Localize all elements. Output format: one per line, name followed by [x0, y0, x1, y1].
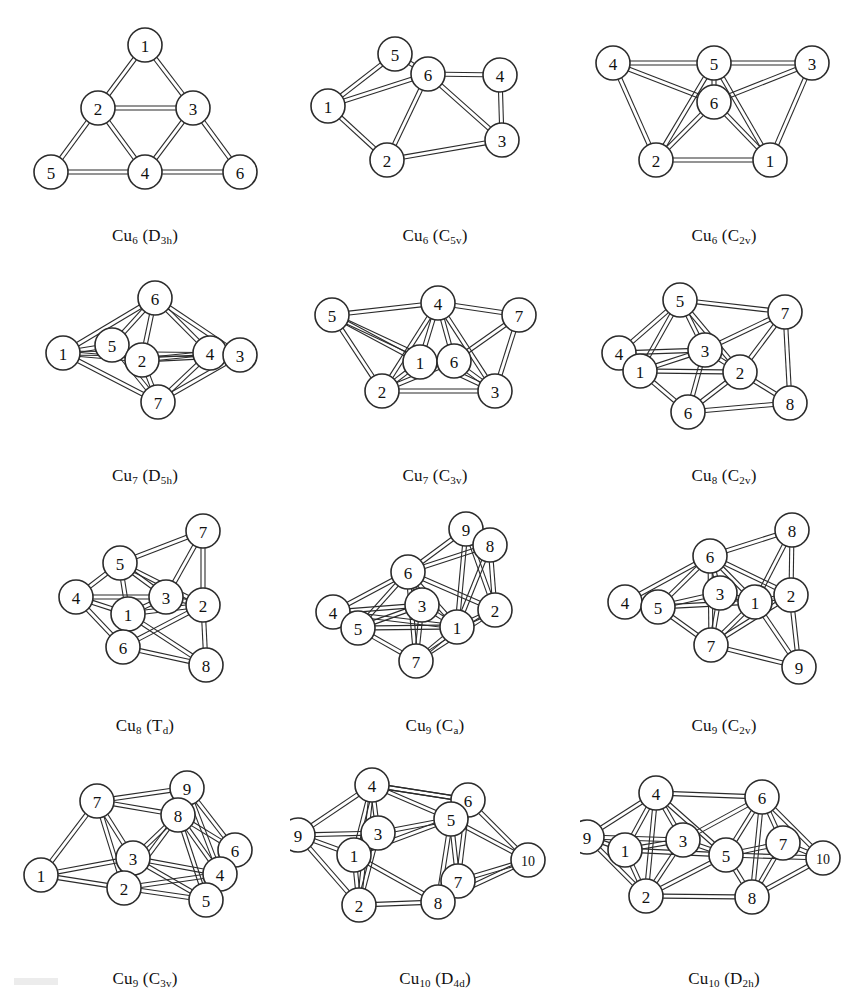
cluster-node-4[interactable]: 4 [193, 336, 227, 370]
cluster-node-4[interactable]: 4 [128, 155, 162, 189]
cluster-node-3[interactable]: 3 [176, 91, 210, 125]
cluster-node-6[interactable]: 6 [138, 281, 172, 315]
cluster-node-5[interactable]: 5 [697, 46, 731, 80]
cluster-node-2[interactable]: 2 [186, 588, 220, 622]
cluster-node-5[interactable]: 5 [34, 155, 68, 189]
bond-1-7 [722, 612, 742, 631]
node-label-6: 6 [758, 789, 767, 808]
cluster-node-2[interactable]: 2 [125, 343, 159, 377]
cluster-node-6[interactable]: 6 [106, 630, 140, 664]
cluster-node-7[interactable]: 7 [141, 385, 175, 419]
cluster-node-4[interactable]: 4 [59, 580, 93, 614]
cluster-node-7[interactable]: 7 [766, 826, 800, 860]
cluster-figure-grid: 123546Cu6 (D3h)564132Cu6 (C5v)453621Cu6 … [0, 0, 868, 993]
cluster-node-2[interactable]: 2 [365, 374, 399, 408]
node-label-4: 4 [615, 345, 624, 364]
node-label-7: 7 [454, 873, 463, 892]
cluster-node-8[interactable]: 8 [735, 880, 769, 914]
cluster-node-1[interactable]: 1 [738, 585, 772, 619]
node-label-2: 2 [378, 383, 387, 402]
cluster-node-1[interactable]: 1 [311, 89, 345, 123]
cluster-node-7[interactable]: 7 [694, 628, 728, 662]
cluster-node-5[interactable]: 5 [95, 328, 129, 362]
bond-2-1 [472, 615, 479, 618]
cluster-node-3[interactable]: 3 [223, 338, 257, 372]
cluster-node-5[interactable]: 5 [341, 611, 375, 645]
caption-element: Cu [112, 466, 132, 485]
cluster-node-7[interactable]: 7 [502, 298, 536, 332]
cluster-node-6[interactable]: 6 [391, 555, 425, 589]
cluster-node-5[interactable]: 5 [434, 802, 468, 836]
node-label-7: 7 [781, 304, 790, 323]
cluster-node-3[interactable]: 3 [149, 580, 183, 614]
cluster-node-1[interactable]: 1 [440, 610, 474, 644]
cluster-node-2[interactable]: 2 [81, 91, 115, 125]
cluster-node-2[interactable]: 2 [774, 578, 808, 612]
bond-7-10 [798, 851, 806, 854]
cluster-node-3[interactable]: 3 [703, 576, 737, 610]
cluster-node-4[interactable]: 4 [421, 286, 455, 320]
cluster-node-5[interactable]: 5 [641, 590, 675, 624]
cluster-node-4[interactable]: 4 [596, 46, 630, 80]
cluster-node-5[interactable]: 5 [378, 37, 412, 71]
bond-3-9 [315, 835, 361, 836]
cluster-node-1[interactable]: 1 [24, 858, 58, 892]
cluster-node-2[interactable]: 2 [342, 888, 376, 922]
cluster-node-7[interactable]: 7 [186, 514, 220, 548]
cluster-node-6[interactable]: 6 [697, 85, 731, 119]
cluster-node-1[interactable]: 1 [608, 833, 642, 867]
cluster-node-7[interactable]: 7 [399, 644, 433, 678]
cluster-node-10[interactable]: 10 [511, 843, 545, 877]
cluster-node-1[interactable]: 1 [403, 345, 437, 379]
node-label-6: 6 [710, 94, 719, 113]
cluster-node-1[interactable]: 1 [46, 336, 80, 370]
cluster-node-7[interactable]: 7 [768, 295, 802, 329]
cluster-node-3[interactable]: 3 [795, 46, 829, 80]
cluster-node-6[interactable]: 6 [745, 780, 779, 814]
cluster-node-1[interactable]: 1 [337, 838, 371, 872]
cluster-node-4[interactable]: 4 [355, 768, 389, 802]
cluster-node-6[interactable]: 6 [671, 395, 705, 429]
cluster-node-1[interactable]: 1 [111, 597, 145, 631]
cluster-node-5[interactable]: 5 [103, 546, 137, 580]
cluster-node-6[interactable]: 6 [437, 344, 471, 378]
cluster-node-9[interactable]: 9 [782, 650, 816, 684]
cluster-node-6[interactable]: 6 [411, 57, 445, 91]
cluster-node-1[interactable]: 1 [128, 28, 162, 62]
cluster-node-5[interactable]: 5 [663, 283, 697, 317]
cluster-node-8[interactable]: 8 [161, 798, 195, 832]
cluster-node-2[interactable]: 2 [639, 143, 673, 177]
cluster-node-6[interactable]: 6 [223, 155, 257, 189]
cluster-node-4[interactable]: 4 [608, 585, 642, 619]
cluster-node-2[interactable]: 2 [107, 871, 141, 905]
cluster-node-10[interactable]: 10 [806, 841, 840, 875]
cluster-node-5[interactable]: 5 [709, 838, 743, 872]
cluster-node-8[interactable]: 8 [473, 528, 507, 562]
cluster-node-3[interactable]: 3 [666, 823, 700, 857]
cluster-node-1[interactable]: 1 [753, 143, 787, 177]
cluster-node-8[interactable]: 8 [773, 386, 807, 420]
cluster-node-3[interactable]: 3 [688, 333, 722, 367]
cluster-node-3[interactable]: 3 [478, 374, 512, 408]
cluster-node-7[interactable]: 7 [80, 784, 114, 818]
cluster-node-2[interactable]: 2 [478, 593, 512, 627]
cluster-node-3[interactable]: 3 [485, 123, 519, 157]
cluster-node-5[interactable]: 5 [189, 883, 223, 917]
cluster-node-2[interactable]: 2 [370, 143, 404, 177]
caption-element: Cu [399, 969, 419, 988]
cluster-node-4[interactable]: 4 [483, 58, 517, 92]
cluster-graph-cu10-d2h: 46937151028 [580, 740, 868, 969]
cluster-node-1[interactable]: 1 [623, 354, 657, 388]
cluster-node-8[interactable]: 8 [775, 513, 809, 547]
cluster-node-2[interactable]: 2 [723, 355, 757, 389]
cluster-node-3[interactable]: 3 [405, 588, 439, 622]
cluster-node-8[interactable]: 8 [421, 885, 455, 919]
cluster-node-2[interactable]: 2 [629, 879, 663, 913]
cluster-node-4[interactable]: 4 [639, 776, 673, 810]
cluster-node-9[interactable]: 9 [580, 820, 604, 854]
cluster-node-3[interactable]: 3 [116, 841, 150, 875]
cluster-node-8[interactable]: 8 [189, 648, 223, 682]
cluster-node-5[interactable]: 5 [315, 298, 349, 332]
node-label-6: 6 [119, 639, 128, 658]
cluster-node-6[interactable]: 6 [693, 539, 727, 573]
